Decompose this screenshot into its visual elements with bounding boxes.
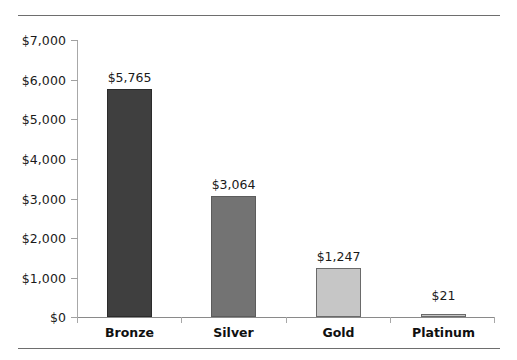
category-label-bronze: Bronze: [105, 325, 154, 340]
y-tick-label: $4,000: [0, 151, 66, 166]
y-axis-line: [77, 40, 78, 318]
y-tick-label: $7,000: [0, 33, 66, 48]
bar-value-label-platinum: $21: [432, 288, 456, 303]
y-tick-mark: [71, 159, 78, 160]
bar-value-label-bronze: $5,765: [108, 70, 152, 85]
bar-chart-figure: $7,000 $6,000 $5,000 $4,000 $3,000 $2,00…: [0, 0, 517, 360]
y-tick-mark: [71, 119, 78, 120]
bar-platinum[interactable]: [421, 314, 466, 318]
y-tick-label: $2,000: [0, 231, 66, 246]
x-tick-mark: [390, 317, 391, 323]
y-tick-label: $6,000: [0, 72, 66, 87]
bar-gold[interactable]: [316, 268, 361, 317]
y-tick-mark: [71, 40, 78, 41]
y-tick-mark: [71, 80, 78, 81]
x-tick-mark: [286, 317, 287, 323]
x-tick-mark: [181, 317, 182, 323]
plot-area: $7,000 $6,000 $5,000 $4,000 $3,000 $2,00…: [0, 0, 517, 360]
y-tick-label: $5,000: [0, 112, 66, 127]
y-tick-mark: [71, 278, 78, 279]
bar-bronze[interactable]: [107, 89, 152, 317]
bar-value-label-silver: $3,064: [212, 177, 256, 192]
x-tick-mark: [77, 317, 78, 323]
y-tick-mark: [71, 199, 78, 200]
category-label-platinum: Platinum: [412, 325, 475, 340]
y-tick-label: $0: [0, 310, 66, 325]
bar-value-label-gold: $1,247: [317, 249, 361, 264]
y-tick-mark: [71, 238, 78, 239]
y-tick-label: $1,000: [0, 270, 66, 285]
category-label-gold: Gold: [322, 325, 354, 340]
x-tick-mark: [494, 317, 495, 323]
y-tick-label: $3,000: [0, 191, 66, 206]
category-label-silver: Silver: [213, 325, 253, 340]
bar-silver[interactable]: [211, 196, 256, 317]
